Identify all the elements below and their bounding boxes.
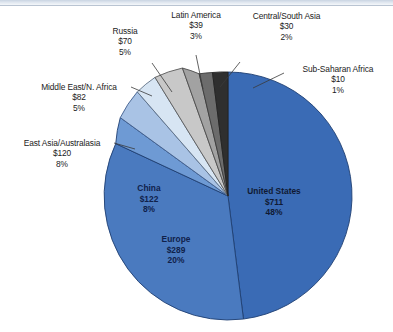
slice-label-middle-east-n-africa-percent: 5% xyxy=(28,103,130,113)
slice-label-sub-saharan-africa-value: $10 xyxy=(288,74,388,84)
slice-label-central-south-asia: Central/South Asia $30 2% xyxy=(240,11,333,42)
slice-label-united-states-value: $711 xyxy=(228,197,320,208)
slice-label-russia-value: $70 xyxy=(97,36,153,46)
slice-label-europe: Europe $289 20% xyxy=(139,234,213,266)
slice-label-latin-america-name: Latin America xyxy=(159,10,233,20)
slice-label-central-south-asia-percent: 2% xyxy=(240,32,333,42)
slice-label-latin-america-percent: 3% xyxy=(159,31,233,41)
slice-label-china-value: $122 xyxy=(112,194,186,205)
pie-chart-page: Russia $70 5% Latin America $39 3% Centr… xyxy=(0,0,393,332)
slice-label-east-asia-australasia-name: East Asia/Australasia xyxy=(12,138,112,148)
slice-label-united-states: United States $711 48% xyxy=(228,186,320,218)
slice-label-east-asia-australasia-percent: 8% xyxy=(12,159,112,169)
slice-label-middle-east-n-africa-value: $82 xyxy=(28,92,130,102)
slice-label-china: China $122 8% xyxy=(112,183,186,215)
slice-label-united-states-percent: 48% xyxy=(228,207,320,218)
slice-label-middle-east-n-africa: Middle East/N. Africa $82 5% xyxy=(28,82,130,113)
slice-label-europe-value: $289 xyxy=(139,245,213,256)
slice-label-china-name: China xyxy=(112,183,186,194)
slice-label-europe-name: Europe xyxy=(139,234,213,245)
slice-label-russia: Russia $70 5% xyxy=(97,26,153,57)
slice-label-east-asia-australasia: East Asia/Australasia $120 8% xyxy=(12,138,112,169)
slice-label-china-percent: 8% xyxy=(112,204,186,215)
slice-label-sub-saharan-africa: Sub-Saharan Africa $10 1% xyxy=(288,64,388,95)
slice-label-central-south-asia-value: $30 xyxy=(240,21,333,31)
slice-label-central-south-asia-name: Central/South Asia xyxy=(240,11,333,21)
slice-label-middle-east-n-africa-name: Middle East/N. Africa xyxy=(28,82,130,92)
slice-label-united-states-name: United States xyxy=(228,186,320,197)
slice-label-latin-america-value: $39 xyxy=(159,20,233,30)
slice-label-sub-saharan-africa-percent: 1% xyxy=(288,85,388,95)
slice-label-east-asia-australasia-value: $120 xyxy=(12,148,112,158)
slice-label-sub-saharan-africa-name: Sub-Saharan Africa xyxy=(288,64,388,74)
slice-label-russia-percent: 5% xyxy=(97,47,153,57)
slice-label-russia-name: Russia xyxy=(97,26,153,36)
slice-label-latin-america: Latin America $39 3% xyxy=(159,10,233,41)
slice-label-europe-percent: 20% xyxy=(139,255,213,266)
